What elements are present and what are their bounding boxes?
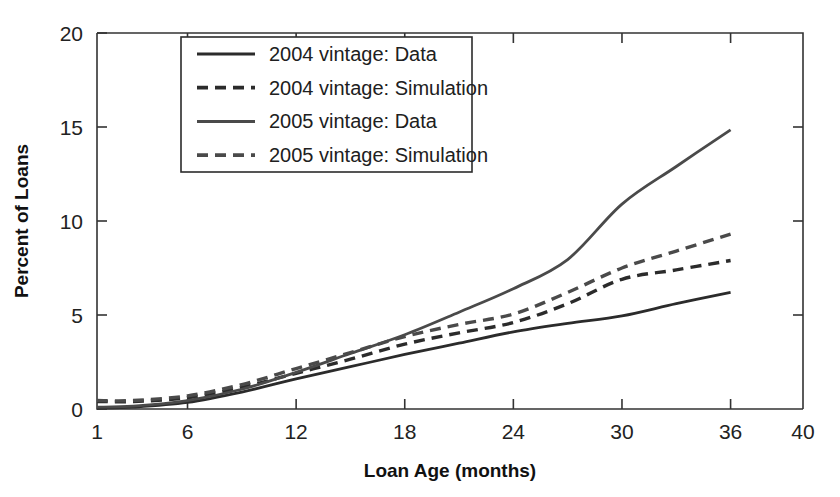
series-line-4 xyxy=(97,234,731,401)
y-axis-title: Percent of Loans xyxy=(11,144,32,298)
y-tick-label: 15 xyxy=(60,116,83,139)
x-axis-title: Loan Age (months) xyxy=(364,460,536,481)
legend-label-3: 2005 vintage: Data xyxy=(269,110,438,132)
x-tick-label: 1 xyxy=(91,420,103,443)
chart-figure: 0510152016121824303640Loan Age (months)P… xyxy=(0,0,840,497)
y-tick-label: 10 xyxy=(60,210,83,233)
x-tick-label: 30 xyxy=(610,420,633,443)
series-line-1 xyxy=(97,292,731,408)
x-tick-label: 40 xyxy=(791,420,814,443)
legend-label-2: 2004 vintage: Simulation xyxy=(269,77,488,99)
x-tick-label: 24 xyxy=(502,420,526,443)
x-tick-label: 36 xyxy=(719,420,742,443)
x-tick-label: 12 xyxy=(284,420,307,443)
legend-label-1: 2004 vintage: Data xyxy=(269,43,438,65)
line-chart: 0510152016121824303640Loan Age (months)P… xyxy=(0,0,840,497)
x-tick-label: 18 xyxy=(393,420,416,443)
legend-label-4: 2005 vintage: Simulation xyxy=(269,144,488,166)
y-tick-label: 0 xyxy=(71,398,83,421)
x-tick-label: 6 xyxy=(182,420,194,443)
y-tick-label: 5 xyxy=(71,304,83,327)
y-tick-label: 20 xyxy=(60,22,83,45)
